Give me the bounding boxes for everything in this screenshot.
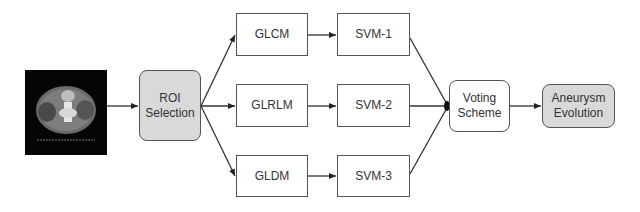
glcm-label: GLCM <box>255 27 290 42</box>
glrlm-label: GLRLM <box>251 98 292 113</box>
ct-scan-image <box>25 70 107 155</box>
voting-scheme-box: Voting Scheme <box>449 80 510 132</box>
svm-3-label: SVM-3 <box>355 169 392 184</box>
svm-1-label: SVM-1 <box>355 27 392 42</box>
glcm-box: GLCM <box>236 13 308 56</box>
roi-selection-box: ROI Selection <box>139 70 201 141</box>
roi-selection-label: ROI Selection <box>145 91 194 121</box>
svm-1-box: SVM-1 <box>337 13 410 56</box>
aneurysm-evolution-label: Aneurysm Evolution <box>551 91 605 121</box>
gldm-label: GLDM <box>255 169 290 184</box>
glrlm-box: GLRLM <box>236 84 308 127</box>
aneurysm-evolution-box: Aneurysm Evolution <box>542 84 615 128</box>
gldm-box: GLDM <box>236 155 308 197</box>
svm-3-box: SVM-3 <box>337 155 410 197</box>
voting-scheme-label: Voting Scheme <box>457 91 501 121</box>
svm-2-label: SVM-2 <box>355 98 392 113</box>
ct-scan-icon <box>25 70 107 155</box>
svm-2-box: SVM-2 <box>337 84 410 127</box>
pipeline-diagram: ROI Selection GLCM GLRLM GLDM SVM-1 SVM-… <box>0 0 640 212</box>
